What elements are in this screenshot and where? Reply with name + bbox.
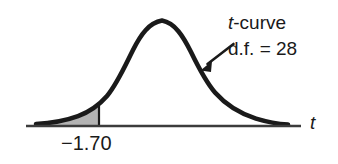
curve-label-text: -curve <box>233 12 286 33</box>
t-distribution-figure: t-curve d.f. = 28 −1.70 t <box>0 0 338 164</box>
t-curve-path <box>36 21 288 125</box>
degrees-of-freedom-label: d.f. = 28 <box>228 39 297 58</box>
t-curve-plot <box>0 0 338 164</box>
x-axis-label: t <box>310 113 315 132</box>
curve-label: t-curve <box>228 13 286 32</box>
x-axis-tick-label: −1.70 <box>61 133 112 153</box>
